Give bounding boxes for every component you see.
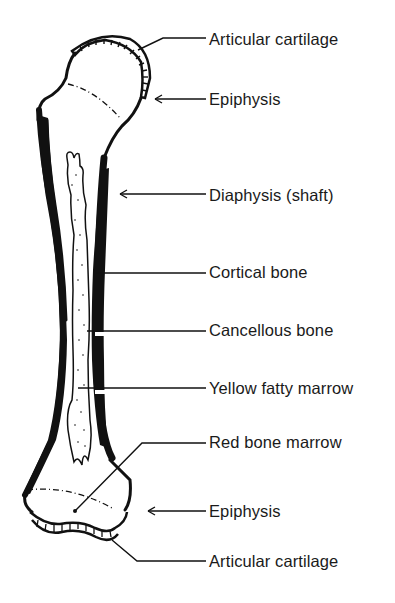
- long-bone-diagram: [0, 0, 395, 603]
- label-articular-cartilage-top: Articular cartilage: [209, 30, 338, 48]
- label-epiphysis-top: Epiphysis: [209, 90, 281, 108]
- label-epiphysis-bottom: Epiphysis: [209, 502, 281, 520]
- label-yellow-fatty-marrow: Yellow fatty marrow: [209, 379, 353, 397]
- marrow-cavity: [67, 152, 91, 465]
- label-cortical-bone: Cortical bone: [209, 263, 308, 281]
- label-cancellous-bone: Cancellous bone: [209, 321, 333, 339]
- articular-cartilage-bottom-shape: [30, 512, 127, 540]
- label-red-bone-marrow: Red bone marrow: [209, 433, 342, 451]
- label-diaphysis: Diaphysis (shaft): [209, 186, 334, 204]
- label-articular-cartilage-bottom: Articular cartilage: [209, 552, 338, 570]
